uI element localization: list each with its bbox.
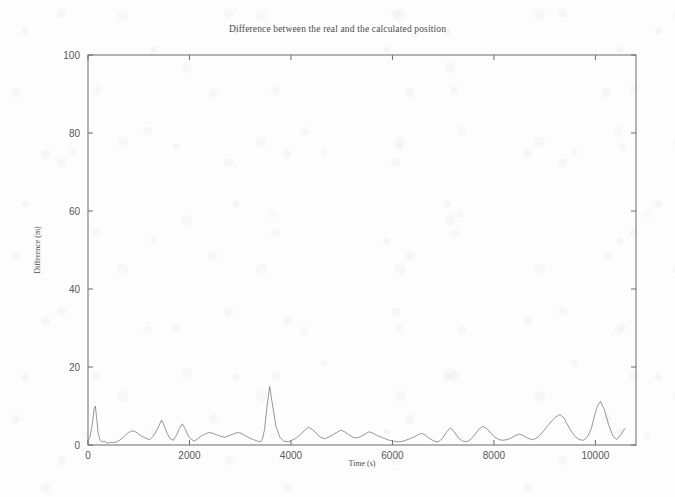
y-tick-label: 80 <box>69 128 81 139</box>
x-axis-title: Time (s) <box>348 459 375 468</box>
data-series-line <box>88 387 625 444</box>
x-tick-label: 2000 <box>178 450 201 461</box>
y-tick-label: 40 <box>69 284 81 295</box>
chart-page: Difference between the real and the calc… <box>0 0 675 497</box>
x-tick-label: 0 <box>85 450 91 461</box>
y-tick-label: 20 <box>69 362 81 373</box>
plot-frame-border <box>88 55 636 445</box>
y-tick-label: 100 <box>63 50 80 61</box>
x-axis-tick-labels: 0200040006000800010000 <box>85 450 610 461</box>
x-tick-label: 10000 <box>582 450 610 461</box>
line-chart-plot: 0200040006000800010000 020406080100 Time… <box>0 0 675 497</box>
axis-ticks-group <box>88 55 636 445</box>
y-axis-title: Difference (m) <box>33 226 42 274</box>
y-tick-label: 0 <box>74 440 80 451</box>
x-tick-label: 6000 <box>381 450 404 461</box>
x-tick-label: 4000 <box>280 450 303 461</box>
y-axis-tick-labels: 020406080100 <box>63 50 80 451</box>
y-tick-label: 60 <box>69 206 81 217</box>
x-tick-label: 8000 <box>483 450 506 461</box>
